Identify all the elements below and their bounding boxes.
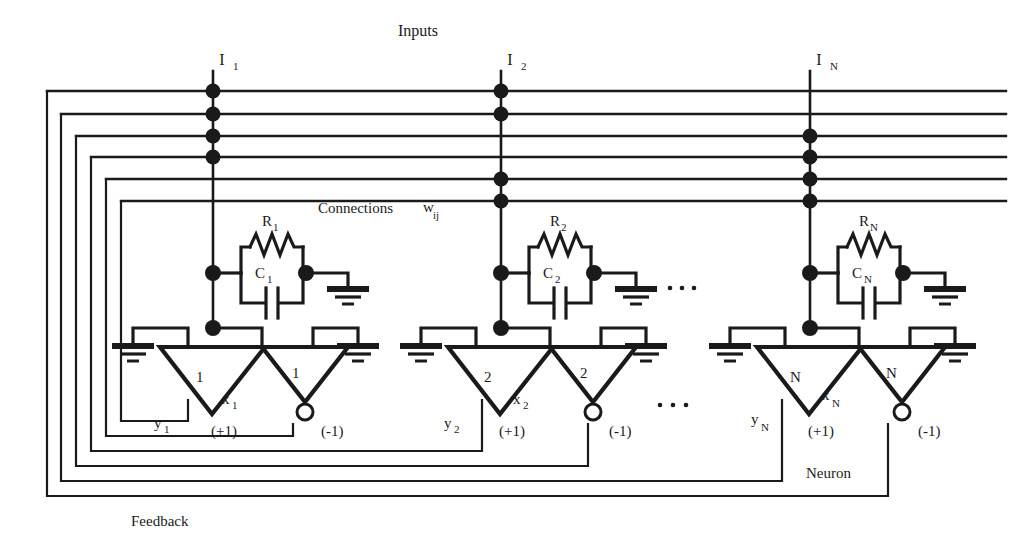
resistor-label-n: R [859, 213, 869, 229]
resistor-zigzag-1 [250, 234, 303, 255]
resistor-branch-2 [529, 247, 538, 273]
rc-network-1: R 1 C 1 [205, 213, 369, 318]
neuron-label: Neuron [806, 465, 851, 481]
junction-dot [803, 129, 818, 144]
input-label-1: I [219, 51, 224, 68]
feedback-path-6 [121, 201, 188, 421]
feedback-path-3 [76, 136, 588, 466]
input-label-2: I [507, 51, 512, 68]
junction-dot [206, 150, 221, 165]
input-column-n: I N [803, 51, 839, 333]
capacitor-label-2: C [543, 265, 553, 281]
state-sublabel-n: N [832, 397, 840, 409]
rc-network-2: R 2 C 2 [493, 213, 657, 318]
ellipsis-dot [684, 403, 689, 408]
resistor-zigzag-2 [538, 234, 591, 255]
ground-symbol [327, 289, 369, 304]
sign-label-np: (+1) [808, 423, 834, 440]
ground-symbol [400, 346, 442, 361]
junction-dot [206, 129, 221, 144]
output-label-2: y [444, 415, 452, 431]
junction-dot [803, 150, 818, 165]
amplifier-gain-label-1p: 1 [196, 369, 204, 385]
junction-dot [206, 107, 221, 122]
resistor-branch-n [838, 247, 847, 273]
neuron-group-2: 2 2 x 2 y 2 (+1) (-1) [400, 320, 667, 440]
resistor-sublabel-n: N [870, 221, 878, 233]
amplifier-gain-label-2p: 2 [484, 369, 492, 385]
ellipsis-dot [668, 286, 673, 291]
sign-label-2n: (-1) [609, 423, 632, 440]
input-column-1: I 1 [206, 51, 239, 333]
output-label-n: y [751, 411, 759, 427]
ground-symbol [924, 289, 966, 304]
capacitor-sublabel-n: N [864, 273, 872, 285]
ellipsis-dot [680, 286, 685, 291]
resistor-label-1: R [262, 213, 272, 229]
resistor-branch-1 [241, 247, 250, 273]
inverting-bubble-n [894, 404, 910, 420]
sign-label-1p: (+1) [211, 423, 237, 440]
output-label-1: y [154, 415, 162, 431]
junction-dot [206, 84, 221, 99]
input-sublabel-n: N [830, 60, 838, 72]
inputs-title: Inputs [398, 22, 438, 40]
output-sublabel-2: 2 [454, 423, 460, 435]
connections-label: Connections [318, 200, 393, 216]
capacitor-label-n: C [852, 265, 862, 281]
sign-label-2p: (+1) [499, 423, 525, 440]
ellipsis-dot [658, 403, 663, 408]
inverting-bubble-1 [297, 404, 313, 420]
resistor-zigzag-n [847, 234, 900, 255]
sign-label-nn: (-1) [918, 423, 941, 440]
amplifier-positive-n[interactable] [757, 347, 862, 414]
input-label-n: I [816, 51, 821, 68]
state-sublabel-2: 2 [523, 399, 529, 411]
output-sublabel-1: 1 [164, 423, 170, 435]
neuron-group-n: N N x N y N (+1) (-1) [709, 320, 976, 440]
junction-dot [494, 194, 509, 209]
capacitor-label-1: C [255, 265, 265, 281]
state-label-n: x [822, 387, 830, 403]
state-label-1: x [222, 391, 230, 407]
resistor-sublabel-1: 1 [273, 221, 279, 233]
ground-symbol [615, 289, 657, 304]
amplifier-negative-2[interactable] [550, 347, 636, 402]
amplifier-gain-label-np: N [790, 369, 801, 385]
weight-sublabel: ij [433, 209, 439, 221]
amplifier-gain-label-1n: 1 [292, 365, 300, 381]
amplifier-gain-label-2n: 2 [580, 365, 588, 381]
amplifier-negative-1[interactable] [262, 347, 348, 402]
output-sublabel-n: N [761, 421, 769, 433]
sign-label-1n: (-1) [321, 423, 344, 440]
connection-bus-lines [47, 91, 1006, 201]
ellipsis-dot [692, 286, 697, 291]
junction-dot [803, 172, 818, 187]
junction-dot [494, 172, 509, 187]
amplifier-gain-label-nn: N [886, 365, 897, 381]
resistor-sublabel-2: 2 [561, 221, 567, 233]
amplifier-positive-2[interactable] [448, 347, 553, 414]
input-sublabel-2: 2 [521, 60, 527, 72]
capacitor-sublabel-2: 2 [555, 273, 561, 285]
figure-canvas: I 1 I 2 I N [0, 0, 1018, 554]
junction-dot [494, 107, 509, 122]
amplifier-negative-n[interactable] [859, 347, 945, 402]
amplifier-positive-1[interactable] [160, 347, 265, 414]
state-label-2: x [513, 391, 521, 407]
capacitor-sublabel-1: 1 [267, 273, 273, 285]
rc-network-n: R N C N [802, 213, 966, 318]
resistor-label-2: R [550, 213, 560, 229]
input-sublabel-1: 1 [233, 60, 239, 72]
inverting-bubble-2 [585, 404, 601, 420]
ground-symbol [112, 346, 154, 361]
circuit-diagram: I 1 I 2 I N [0, 0, 1018, 554]
ground-symbol [709, 346, 751, 361]
junction-dot [803, 194, 818, 209]
junction-dot [494, 84, 509, 99]
ellipsis-dot [671, 403, 676, 408]
feedback-loops [47, 91, 888, 496]
input-column-2: I 2 [494, 51, 527, 333]
state-sublabel-1: 1 [232, 399, 238, 411]
feedback-label: Feedback [131, 513, 189, 529]
